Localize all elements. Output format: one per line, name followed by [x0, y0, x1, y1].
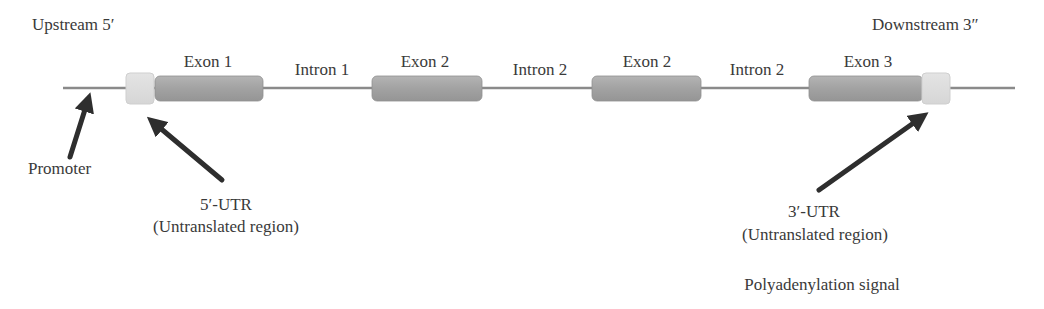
intron2b-label: Intron 2	[730, 60, 784, 80]
promoter-arrow-icon	[70, 100, 88, 157]
utr3-label: 3′-UTR	[788, 202, 840, 222]
gene-structure-diagram: Upstream 5′ Downstream 3″ Exon 1 Intron …	[0, 0, 1044, 309]
exon2a-label: Exon 2	[401, 52, 450, 72]
exon1-box	[155, 76, 263, 101]
promoter-label: Promoter	[28, 159, 91, 179]
exon2b-box	[592, 76, 701, 101]
utr3-arrow-icon	[819, 117, 922, 190]
downstream-title: Downstream 3″	[872, 15, 979, 35]
upstream-title: Upstream 5′	[32, 15, 115, 35]
exon1-label: Exon 1	[184, 52, 233, 72]
exon3-box	[809, 76, 923, 101]
polyadenylation-label: Polyadenylation signal	[744, 275, 899, 295]
utr3-sublabel: (Untranslated region)	[742, 225, 888, 245]
exon3-label: Exon 3	[844, 52, 893, 72]
intron1-label: Intron 1	[295, 60, 349, 80]
exon2b-label: Exon 2	[623, 52, 672, 72]
intron2a-label: Intron 2	[513, 60, 567, 80]
utr5-arrow-icon	[153, 122, 222, 180]
utr5-sublabel: (Untranslated region)	[153, 217, 299, 237]
utr5-label: 5′-UTR	[200, 195, 252, 215]
exon2a-box	[372, 76, 482, 101]
utr5-box	[126, 73, 154, 104]
utr3-box	[922, 73, 950, 104]
gene-diagram-graphic	[0, 0, 1044, 309]
